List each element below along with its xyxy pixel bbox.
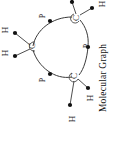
bond-dot-top-up — [70, 0, 74, 4]
bond-c-bottom-to-h-low — [70, 81, 74, 105]
bond-dot-bottom-low — [68, 103, 72, 107]
atom-label-c-left: C — [27, 43, 37, 49]
site-label-lower-left: P — [38, 77, 47, 82]
site-dot-lower-left — [48, 72, 52, 76]
site-label-right: P — [82, 43, 91, 48]
bond-dot-bottom-right — [86, 86, 90, 90]
molecular-graph-figure: C C C P P P H H H H H Molecular Graph — [0, 0, 113, 147]
bond-dot-left-lower — [13, 54, 17, 58]
hydrogen-label-left-lower: H — [0, 49, 10, 56]
hydrogen-label-bottom-right: H — [85, 94, 95, 101]
site-dot-upper-left — [48, 19, 52, 23]
ring-bond-left-top — [33, 17, 72, 46]
bond-c-left-to-h-lower — [15, 49, 30, 56]
atom-label-c-top: C — [71, 15, 81, 21]
figure-caption: Molecular Graph — [98, 44, 108, 112]
site-label-upper-left: P — [38, 13, 47, 18]
ring-bond-group — [33, 17, 88, 77]
figure-container: C C C P P P H H H H H Molecular Graph — [0, 0, 113, 147]
substituent-bond-group-top — [70, 0, 94, 15]
atom-label-group: C C C — [27, 15, 81, 79]
hydrogen-label-top-right: H — [97, 0, 107, 7]
atom-label-c-bottom: C — [69, 73, 79, 79]
bond-dot-left-upper — [13, 31, 17, 35]
ring-bond-right-bottom — [79, 47, 88, 75]
ring-bond-top-right — [80, 20, 88, 46]
hydrogen-label-bottom-low: H — [67, 115, 77, 122]
ring-bond-bottom-left — [33, 50, 72, 77]
hydrogen-label-group: H H H H H — [0, 0, 107, 122]
bond-dot-top-right — [90, 6, 94, 10]
substituent-bond-group-bottom — [68, 79, 90, 107]
hydrogen-label-left-upper: H — [0, 26, 10, 33]
